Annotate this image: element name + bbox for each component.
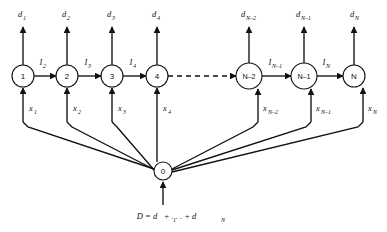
network-diagram: 1 2 3 4 N–2 N–1 N 0 — [0, 0, 387, 232]
node-group-n-1[interactable]: N–1 — [291, 63, 317, 89]
flow-label-2: x — [72, 103, 77, 113]
demand-arrows — [23, 27, 354, 65]
flow-sub-1: 1 — [34, 109, 37, 115]
flow-sub-n-2: N–2 — [267, 109, 278, 115]
node-label-n: N — [351, 72, 357, 81]
demand-sub-n-1: N–1 — [300, 15, 311, 21]
node-group-3[interactable]: 3 — [101, 65, 123, 87]
demand-sub-2: 2 — [67, 15, 70, 21]
arc-sub-3-4: 4 — [133, 63, 136, 69]
flow-sub-2: 2 — [78, 109, 81, 115]
demand-sub-n-2: N–2 — [245, 15, 256, 21]
figure-canvas: 1 2 3 4 N–2 N–1 N 0 — [0, 0, 387, 232]
node-label-2: 2 — [65, 72, 70, 81]
node-label-source: 0 — [161, 167, 166, 176]
demand-labels: d 1 d 2 d 3 d 4 d N–2 d N–1 d N — [18, 9, 360, 21]
flow-sub-n-1: N–1 — [320, 109, 331, 115]
arc-labels: I 2 I 3 I 4 I N–1 I N — [39, 57, 331, 69]
flow-labels: x 1 x 2 x 3 x 4 x N–2 x N–1 x N — [28, 103, 378, 115]
arc-sub-1-2: 2 — [43, 63, 46, 69]
source-connector-n — [172, 122, 363, 172]
node-label-1: 1 — [21, 72, 26, 81]
demand-sub-1: 1 — [23, 15, 26, 21]
node-group-n[interactable]: N — [343, 65, 365, 87]
node-group-source[interactable]: 0 — [154, 162, 172, 180]
source-connector-3 — [112, 122, 155, 171]
flow-arrows-vertical — [23, 88, 363, 162]
source-connector-2 — [67, 122, 155, 170]
flow-label-4: x — [162, 103, 167, 113]
flow-sub-3: 3 — [122, 109, 126, 115]
node-label-3: 3 — [110, 72, 115, 81]
arc-sub-2-3: 3 — [87, 63, 91, 69]
node-group-4[interactable]: 4 — [146, 65, 168, 87]
equation-mid: + . . . + d — [164, 211, 197, 221]
node-label-n-1: N–1 — [297, 72, 310, 81]
equation-lhs: D = d — [136, 211, 158, 221]
demand-sub-3: 3 — [111, 15, 115, 21]
source-connector-1 — [23, 122, 154, 169]
node-group-2[interactable]: 2 — [56, 65, 78, 87]
demand-sub-n: N — [354, 15, 360, 21]
arc-sub-n-2-n-1: N–1 — [271, 63, 282, 69]
flow-sub-4: 4 — [168, 109, 171, 115]
flow-label-n-1: x — [315, 103, 320, 113]
equation-sub-2: N — [220, 217, 226, 223]
source-connectors — [23, 122, 363, 172]
flow-label-3: x — [117, 103, 122, 113]
source-connector-n-1 — [172, 122, 311, 170]
flow-label-n-2: x — [262, 103, 267, 113]
demand-sub-4: 4 — [157, 15, 160, 21]
arc-sub-n-1-n: N — [325, 63, 331, 69]
flow-label-n: x — [367, 103, 372, 113]
node-label-4: 4 — [155, 72, 160, 81]
node-label-n-2: N–2 — [242, 72, 255, 81]
node-group-1[interactable]: 1 — [12, 65, 34, 87]
flow-sub-n: N — [372, 109, 378, 115]
node-group-n-2[interactable]: N–2 — [236, 63, 262, 89]
flow-label-1: x — [28, 103, 33, 113]
total-demand-equation: D = d 1 + . . . + d N — [136, 211, 226, 223]
